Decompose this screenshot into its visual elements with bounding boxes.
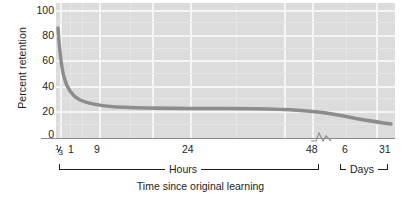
axis-break-icon [310,130,332,142]
days-bracket-label: Days [346,164,378,175]
y-tick-80: 80 [28,30,54,40]
y-tick-100: 100 [28,5,54,15]
forgetting-curve-chart: Percent retention 100 80 60 40 20 0 [0,0,401,199]
x-tick-24: 24 [182,143,194,155]
x-axis-caption: Time since original learning [0,180,401,192]
x-axis-line [41,138,395,139]
x-tick-31: 31 [379,143,391,155]
x-tick-9: 9 [94,143,100,155]
plot-area [56,3,395,138]
days-bracket: Days [340,160,388,170]
fraction-denominator: 3 [59,147,63,159]
y-axis-tick-labels: 100 80 60 40 20 0 [26,0,54,140]
retention-curve [56,3,395,138]
fraction-one-third: 13 [55,143,64,155]
y-tick-20: 20 [28,106,54,116]
x-tick-48: 48 [306,143,318,155]
y-tick-40: 40 [28,81,54,91]
hours-bracket: Hours [59,160,319,170]
x-tick-6: 6 [342,143,348,155]
y-tick-60: 60 [28,55,54,65]
x-tick-one-third: 13 [55,143,64,157]
hours-bracket-label: Hours [165,164,201,175]
x-tick-1: 1 [68,143,74,155]
